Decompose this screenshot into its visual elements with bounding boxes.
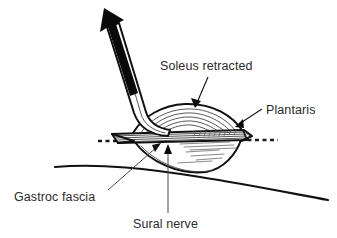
leg-contour — [55, 166, 328, 200]
label-plantaris: Plantaris — [266, 103, 316, 117]
retraction-arrow — [100, 8, 138, 96]
label-gastroc-fascia: Gastroc fascia — [14, 190, 95, 204]
figure-canvas: Soleus retracted Plantaris Gastroc fasci… — [0, 0, 337, 238]
wound-lower-edge — [134, 140, 241, 172]
label-soleus-retracted: Soleus retracted — [160, 59, 253, 73]
wound-inner-detail — [178, 150, 224, 163]
label-sural-nerve: Sural nerve — [133, 217, 198, 231]
plantaris-leader-line — [235, 109, 262, 128]
soleus-leader-line — [191, 77, 208, 108]
anatomical-figure: Soleus retracted Plantaris Gastroc fasci… — [0, 0, 337, 238]
sural-leader-line — [164, 144, 172, 213]
